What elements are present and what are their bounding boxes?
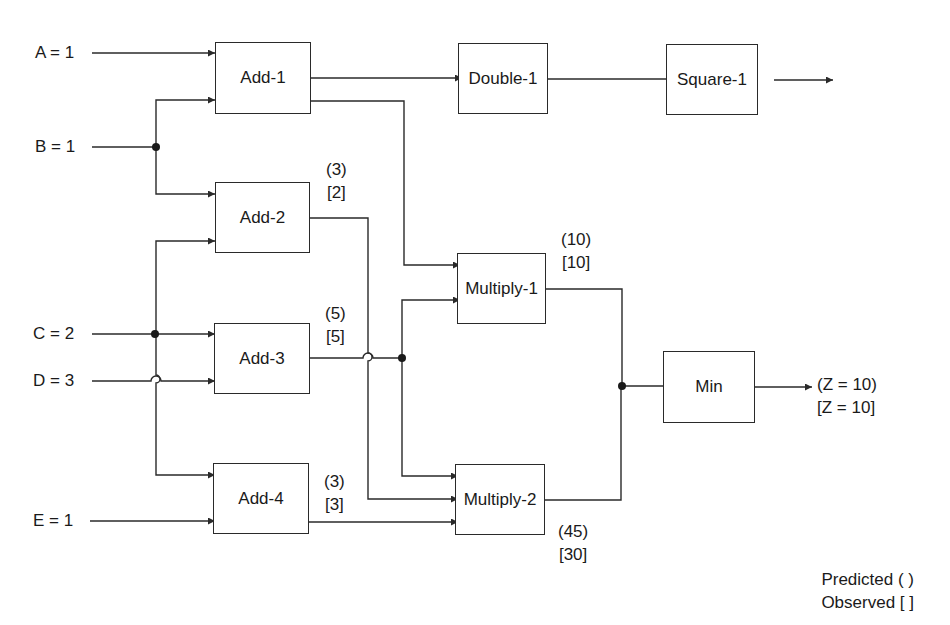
multiply2-predicted: (45): [558, 520, 588, 543]
wire-b-to-add1: [156, 100, 215, 147]
add3-annotation: (5) [5]: [325, 302, 346, 348]
multiply1-observed: [10]: [561, 251, 591, 274]
add2-observed: [2]: [326, 181, 347, 204]
wire-c-to-add4: [156, 334, 215, 475]
add2-predicted: (3): [326, 158, 347, 181]
input-a-label: A = 1: [35, 43, 74, 63]
legend-observed: Observed [ ]: [821, 591, 914, 614]
double1-block: Double-1: [458, 43, 548, 114]
add1-block: Add-1: [215, 42, 311, 114]
wire-c-to-add2: [156, 241, 215, 334]
min-label: Min: [695, 377, 722, 397]
square1-block: Square-1: [666, 44, 758, 115]
input-d-label: D = 3: [33, 371, 74, 391]
wire-d-to-add3: [92, 376, 215, 381]
add3-label: Add-3: [239, 349, 284, 369]
junction-c-dot: [151, 330, 159, 338]
multiply1-predicted: (10): [561, 228, 591, 251]
input-b-label: B = 1: [35, 137, 75, 157]
multiply2-block: Multiply-2: [455, 464, 545, 535]
double1-label: Double-1: [469, 69, 538, 89]
input-c-label: C = 2: [33, 324, 74, 344]
add4-label: Add-4: [238, 489, 283, 509]
wire-b-to-add2: [156, 147, 215, 194]
add3-predicted: (5): [325, 302, 346, 325]
multiply2-observed: [30]: [558, 543, 588, 566]
add2-label: Add-2: [240, 208, 285, 228]
wire-multiply2-out: [544, 386, 621, 500]
add4-predicted: (3): [324, 470, 345, 493]
add4-annotation: (3) [3]: [324, 470, 345, 516]
junction-min-dot: [618, 382, 626, 390]
wire-add3-to-multiply1: [402, 300, 460, 358]
junction-b-dot: [152, 143, 160, 151]
junction-add3-dot: [398, 354, 406, 362]
legend-predicted: Predicted ( ): [821, 568, 914, 591]
output-z-annotation: (Z = 10) [Z = 10]: [817, 373, 877, 419]
wire-add3-to-multiply2: [402, 358, 458, 476]
add3-observed: [5]: [325, 325, 346, 348]
wire-add3: [309, 353, 402, 358]
min-block: Min: [663, 351, 755, 423]
add2-annotation: (3) [2]: [326, 158, 347, 204]
multiply2-label: Multiply-2: [464, 490, 537, 510]
legend: Predicted ( ) Observed [ ]: [821, 568, 914, 614]
add4-observed: [3]: [324, 493, 345, 516]
add3-block: Add-3: [214, 323, 310, 394]
multiply2-annotation: (45) [30]: [558, 520, 588, 566]
multiply1-block: Multiply-1: [457, 253, 546, 324]
add2-block: Add-2: [215, 182, 310, 253]
add4-block: Add-4: [213, 463, 309, 534]
output-z-predicted: (Z = 10): [817, 373, 877, 396]
multiply1-label: Multiply-1: [465, 279, 538, 299]
input-e-label: E = 1: [33, 511, 73, 531]
wire-multiply1-out: [545, 289, 622, 386]
add1-label: Add-1: [240, 68, 285, 88]
output-z-observed: [Z = 10]: [817, 396, 877, 419]
multiply1-annotation: (10) [10]: [561, 228, 591, 274]
square1-label: Square-1: [677, 70, 747, 90]
